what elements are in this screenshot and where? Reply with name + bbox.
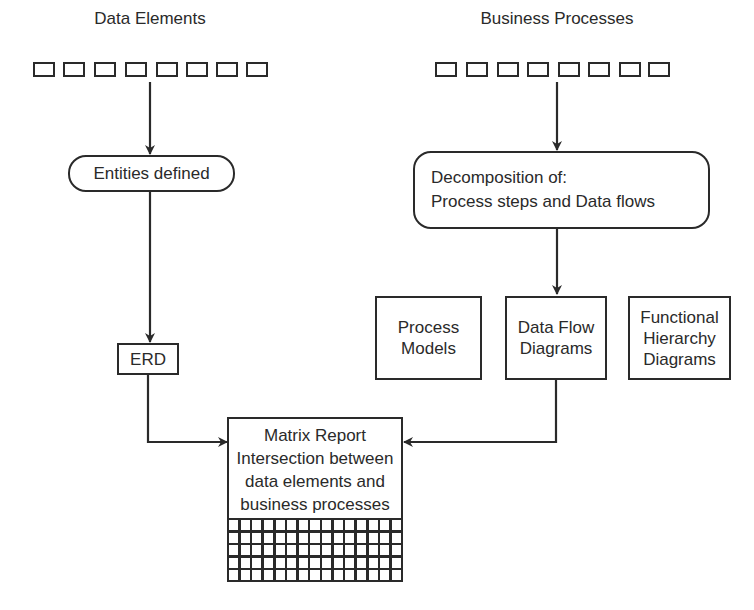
matrix-cell [229, 545, 238, 555]
matrix-cell [264, 558, 273, 568]
matrix-cell [241, 570, 250, 580]
process-models-line2: Models [398, 338, 459, 359]
business-process-square [588, 62, 610, 77]
business-process-square [619, 62, 641, 77]
matrix-cell [229, 520, 238, 530]
matrix-cell [392, 520, 401, 530]
matrix-cell [334, 545, 343, 555]
business-processes-label: Business Processes [447, 8, 667, 29]
process-models-node: Process Models [375, 296, 482, 380]
matrix-cell [357, 558, 366, 568]
matrix-cell [310, 520, 319, 530]
data-elements-label: Data Elements [40, 8, 260, 29]
matrix-line4: business processes [237, 493, 394, 516]
matrix-cell [357, 545, 366, 555]
matrix-cell [322, 545, 331, 555]
data-flow-diagrams-node: Data Flow Diagrams [505, 296, 607, 380]
arrow-dfd-to-matrix [404, 380, 556, 442]
matrix-cell [264, 533, 273, 543]
functional-line2: Hierarchy [640, 328, 718, 349]
functional-hierarchy-node: Functional Hierarchy Diagrams [628, 296, 731, 380]
matrix-cell [252, 558, 261, 568]
matrix-cell [276, 520, 285, 530]
matrix-cell [310, 545, 319, 555]
matrix-cell [264, 520, 273, 530]
data-element-square [63, 62, 85, 77]
business-process-square [497, 62, 519, 77]
matrix-cell [241, 520, 250, 530]
matrix-cell [369, 545, 378, 555]
business-process-square [558, 62, 580, 77]
matrix-cell [299, 570, 308, 580]
data-element-square [156, 62, 178, 77]
matrix-cell [287, 520, 296, 530]
matrix-cell [357, 570, 366, 580]
business-process-square [648, 62, 670, 77]
entities-defined-label: Entities defined [93, 163, 209, 184]
functional-line1: Functional [640, 307, 718, 328]
matrix-cell [276, 570, 285, 580]
matrix-cell [380, 533, 389, 543]
matrix-cell [310, 570, 319, 580]
matrix-cell [276, 533, 285, 543]
matrix-cell [345, 545, 354, 555]
data-flow-line1: Data Flow [518, 317, 595, 338]
data-element-square [246, 62, 268, 77]
functional-line3: Diagrams [640, 349, 718, 370]
data-element-square [125, 62, 147, 77]
data-element-square [33, 62, 55, 77]
matrix-cell [241, 533, 250, 543]
matrix-cell [369, 570, 378, 580]
matrix-cell [264, 570, 273, 580]
matrix-cell [369, 520, 378, 530]
decomposition-line1: Decomposition of: [431, 166, 655, 190]
matrix-cell [287, 545, 296, 555]
erd-label: ERD [130, 349, 166, 370]
process-models-line1: Process [398, 317, 459, 338]
matrix-cell [299, 520, 308, 530]
matrix-cell [252, 545, 261, 555]
matrix-report-node: Matrix Report Intersection between data … [227, 417, 403, 520]
matrix-cell [369, 533, 378, 543]
matrix-cell [310, 558, 319, 568]
matrix-cell [345, 520, 354, 530]
matrix-cell [252, 533, 261, 543]
matrix-cell [299, 558, 308, 568]
matrix-cell [299, 545, 308, 555]
matrix-cell [334, 533, 343, 543]
matrix-cell [392, 533, 401, 543]
matrix-cell [276, 545, 285, 555]
matrix-cell [357, 533, 366, 543]
data-flow-line2: Diagrams [518, 338, 595, 359]
matrix-cell [334, 558, 343, 568]
matrix-cell [241, 558, 250, 568]
erd-node: ERD [117, 343, 179, 375]
matrix-grid [227, 518, 403, 582]
matrix-cell [392, 545, 401, 555]
matrix-cell [345, 558, 354, 568]
matrix-cell [380, 558, 389, 568]
matrix-cell [334, 570, 343, 580]
entities-defined-node: Entities defined [68, 155, 235, 192]
data-element-square [216, 62, 238, 77]
matrix-cell [287, 533, 296, 543]
matrix-cell [299, 533, 308, 543]
matrix-cell [310, 533, 319, 543]
matrix-cell [322, 533, 331, 543]
matrix-line3: data elements and [237, 470, 394, 493]
matrix-cell [287, 558, 296, 568]
matrix-cell [287, 570, 296, 580]
arrow-erd-to-matrix [148, 374, 227, 442]
matrix-cell [252, 520, 261, 530]
matrix-cell [229, 533, 238, 543]
matrix-cell [369, 558, 378, 568]
business-process-square [466, 62, 488, 77]
matrix-cell [392, 570, 401, 580]
matrix-cell [322, 520, 331, 530]
business-process-square [527, 62, 549, 77]
matrix-cell [276, 558, 285, 568]
matrix-cell [357, 520, 366, 530]
matrix-cell [334, 520, 343, 530]
matrix-cell [229, 558, 238, 568]
matrix-cell [264, 545, 273, 555]
